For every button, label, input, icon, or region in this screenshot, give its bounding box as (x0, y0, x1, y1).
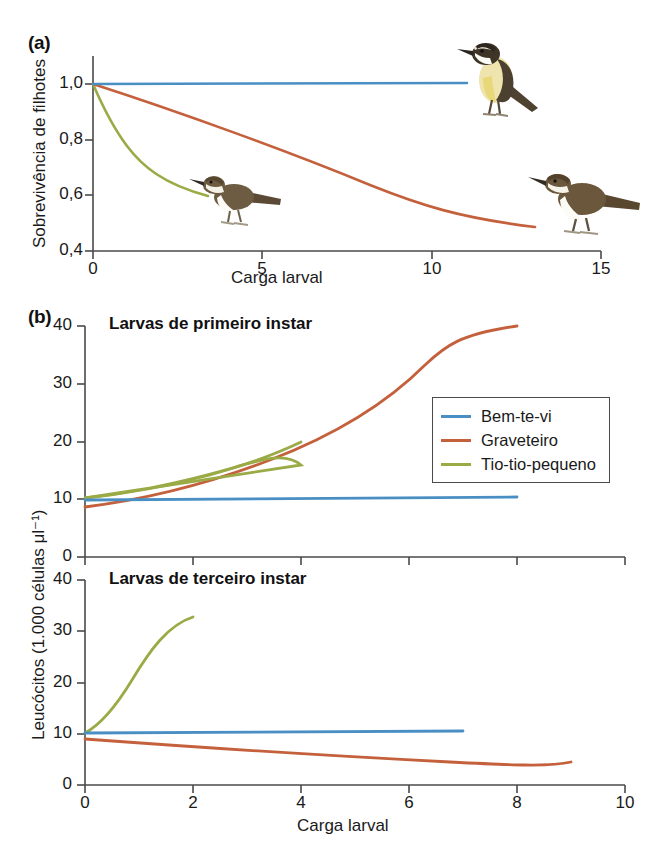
third-instar-y-ticks (77, 580, 85, 785)
third-instar-ytick-0: 0 (32, 774, 72, 794)
panel-b-third-instar-plot (0, 0, 645, 854)
figure-root: (a) 1,0 0,8 0,6 0,4 0 5 10 15 (0, 0, 645, 854)
third-instar-xtick-8: 8 (502, 793, 532, 813)
third-instar-x-ticks (85, 785, 625, 793)
third-instar-xtick-6: 6 (394, 793, 424, 813)
third-instar-xtick-4: 4 (286, 793, 316, 813)
third-instar-xtick-10: 10 (608, 793, 642, 813)
third-instar-ytick-10: 10 (32, 723, 72, 743)
third-instar-ytick-30: 30 (32, 620, 72, 640)
third-instar-series-bem-te-vi (85, 731, 463, 733)
third-instar-ytick-20: 20 (32, 672, 72, 692)
third-instar-series-tio-tio-pequeno (85, 617, 193, 733)
third-instar-xtick-0: 0 (70, 793, 100, 813)
third-instar-series-graveteiro (85, 739, 571, 765)
third-instar-ytick-40: 40 (32, 569, 72, 589)
panel-b-xaxis-title: Carga larval (297, 816, 389, 836)
third-instar-xtick-2: 2 (178, 793, 208, 813)
